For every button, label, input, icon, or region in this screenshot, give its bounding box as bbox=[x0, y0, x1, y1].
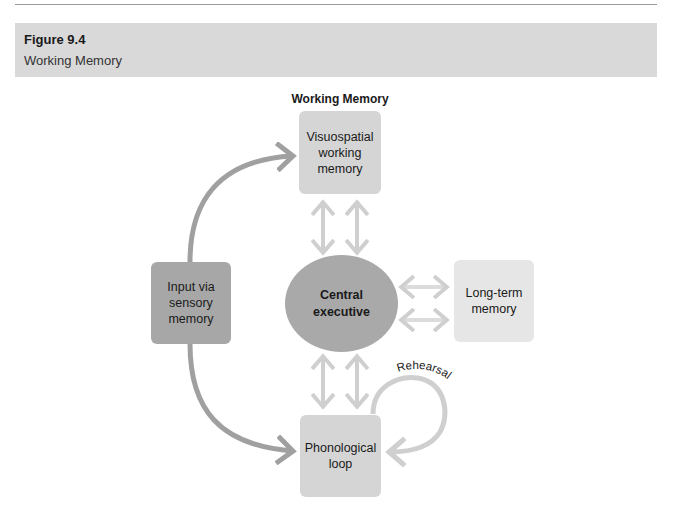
node-central-executive: Central executive bbox=[285, 255, 398, 352]
node-line: loop bbox=[305, 456, 377, 472]
node-line: memory bbox=[167, 311, 214, 327]
node-phonological-loop: Phonological loop bbox=[300, 415, 381, 497]
node-line: executive bbox=[313, 304, 370, 321]
node-line: working bbox=[306, 145, 373, 161]
node-line: Central bbox=[313, 287, 370, 304]
working-memory-heading: Working Memory bbox=[270, 92, 410, 106]
node-line: sensory bbox=[167, 295, 214, 311]
node-line: Input via bbox=[167, 279, 214, 295]
node-line: Long-term bbox=[466, 285, 523, 301]
node-long-term-memory: Long-term memory bbox=[454, 260, 534, 342]
node-input-via-sensory-memory: Input via sensory memory bbox=[151, 262, 231, 344]
node-line: Phonological bbox=[305, 440, 377, 456]
node-line: memory bbox=[466, 301, 523, 317]
node-visuospatial-working-memory: Visuospatial working memory bbox=[299, 111, 381, 194]
node-line: Visuospatial bbox=[306, 129, 373, 145]
node-line: memory bbox=[306, 161, 373, 177]
rehearsal-loop-arrow bbox=[373, 377, 445, 452]
arrow-input-to-visuospatial bbox=[190, 156, 292, 262]
arrow-input-to-phonological bbox=[190, 344, 292, 451]
